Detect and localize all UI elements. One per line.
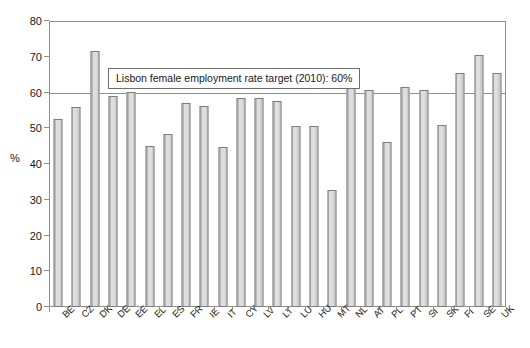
x-axis-tick: [177, 307, 178, 312]
bar-chart: % 01020304050607080 BECZDKDEEEELESFRIEIT…: [0, 0, 530, 348]
bar: [364, 90, 373, 307]
x-axis-tick: [86, 307, 87, 312]
bar: [419, 90, 428, 307]
bar-slot: [287, 21, 305, 307]
bar: [310, 126, 319, 307]
bar-slot: [396, 21, 414, 307]
bar-slot: [214, 21, 232, 307]
bar: [401, 87, 410, 307]
x-axis-tick: [341, 307, 342, 312]
bar-slot: [451, 21, 469, 307]
bar: [346, 72, 355, 307]
bar-slot: [104, 21, 122, 307]
bar-slot: [140, 21, 158, 307]
y-tick-value: 0: [36, 301, 49, 313]
x-axis-tick: [104, 307, 105, 312]
bar-slot: [122, 21, 140, 307]
bar: [163, 134, 172, 307]
bar-series: [49, 21, 506, 307]
bar: [218, 147, 227, 307]
y-axis-tick-label: 0: [0, 301, 49, 313]
bar: [200, 106, 209, 307]
bar-slot: [67, 21, 85, 307]
bar: [456, 73, 465, 307]
bar: [474, 55, 483, 307]
y-tick-value: 10: [30, 265, 49, 277]
y-tick-value: 60: [30, 87, 49, 99]
bar: [108, 96, 117, 307]
bar-slot: [323, 21, 341, 307]
y-tick-value: 50: [30, 122, 49, 134]
bar-slot: [469, 21, 487, 307]
bar: [90, 51, 99, 307]
bar-slot: [177, 21, 195, 307]
x-axis-tick: [305, 307, 306, 312]
bar: [182, 103, 191, 307]
bar-slot: [250, 21, 268, 307]
bar: [145, 146, 154, 307]
bar: [291, 126, 300, 307]
x-axis-tick: [159, 307, 160, 312]
bar: [492, 73, 501, 307]
x-axis-tick: [451, 307, 452, 312]
y-axis-tick-label: 10: [0, 265, 49, 277]
x-axis-tick: [488, 307, 489, 312]
y-tick-value: 20: [30, 230, 49, 242]
x-axis-tick: [49, 307, 50, 312]
x-axis-tick: [433, 307, 434, 312]
x-axis-tick: [67, 307, 68, 312]
bar-slot: [86, 21, 104, 307]
bar-slot: [195, 21, 213, 307]
y-axis-tick-label: 50: [0, 122, 49, 134]
x-axis-tick: [323, 307, 324, 312]
reference-line-annotation: Lisbon female employment rate target (20…: [108, 68, 360, 89]
bar-slot: [433, 21, 451, 307]
bar-slot: [360, 21, 378, 307]
bar-slot: [378, 21, 396, 307]
bar: [273, 101, 282, 307]
bar-slot: [415, 21, 433, 307]
bar: [383, 142, 392, 307]
x-axis-tick: [287, 307, 288, 312]
y-axis-tick-label: 60: [0, 87, 49, 99]
bar: [127, 92, 136, 307]
bar: [255, 98, 264, 307]
bar: [54, 119, 63, 307]
x-axis-tick: [360, 307, 361, 312]
bar-slot: [305, 21, 323, 307]
y-tick-value: 40: [30, 158, 49, 170]
x-axis-tick: [469, 307, 470, 312]
x-axis-tick: [214, 307, 215, 312]
bar-slot: [488, 21, 506, 307]
y-tick-value: 30: [30, 194, 49, 206]
x-axis-tick: [396, 307, 397, 312]
y-tick-value: 70: [30, 51, 49, 63]
x-axis-tick: [268, 307, 269, 312]
x-axis-tick: [122, 307, 123, 312]
y-axis-tick-label: 80: [0, 15, 49, 27]
bar-slot: [49, 21, 67, 307]
y-axis-tick-label: 70: [0, 51, 49, 63]
bar: [72, 107, 81, 307]
x-axis-tick: [506, 307, 507, 312]
bar-slot: [159, 21, 177, 307]
y-tick-value: 80: [30, 15, 49, 27]
y-axis-tick-label: 40: [0, 158, 49, 170]
x-axis-tick: [415, 307, 416, 312]
bar: [328, 190, 337, 307]
bar-slot: [232, 21, 250, 307]
bar: [438, 125, 447, 307]
bar: [236, 98, 245, 307]
y-axis-tick-label: 30: [0, 194, 49, 206]
bar-slot: [268, 21, 286, 307]
x-axis-tick: [195, 307, 196, 312]
bar-slot: [341, 21, 359, 307]
y-axis-tick-label: 20: [0, 230, 49, 242]
x-axis-tick: [232, 307, 233, 312]
x-axis-tick: [378, 307, 379, 312]
x-axis-tick: [140, 307, 141, 312]
x-axis-tick: [250, 307, 251, 312]
